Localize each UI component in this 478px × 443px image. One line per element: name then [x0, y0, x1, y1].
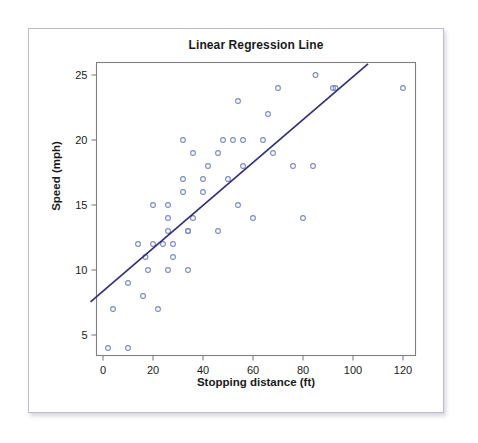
data-point: [106, 346, 111, 351]
data-point: [276, 86, 281, 91]
data-point: [166, 203, 171, 208]
x-tick-label: 80: [297, 364, 309, 376]
data-point: [161, 242, 166, 247]
x-tick-label: 100: [344, 364, 362, 376]
data-point: [236, 203, 241, 208]
plot-frame: [97, 63, 416, 356]
regression-line: [91, 64, 369, 302]
data-point: [241, 138, 246, 143]
data-point: [186, 268, 191, 273]
data-point: [201, 190, 206, 195]
data-point: [151, 242, 156, 247]
data-point: [261, 138, 266, 143]
data-point: [136, 242, 141, 247]
chart-figure: Linear Regression Line Speed (mph) Stopp…: [0, 0, 478, 443]
data-point: [191, 151, 196, 156]
y-tick-label: 25: [75, 69, 87, 81]
data-point: [241, 164, 246, 169]
y-tick-label: 15: [75, 199, 87, 211]
data-point: [181, 190, 186, 195]
x-tick-label: 60: [247, 364, 259, 376]
plot-svg: 020406080100120 510152025: [0, 0, 478, 443]
data-point: [251, 216, 256, 221]
data-point: [181, 177, 186, 182]
x-tick-label: 0: [100, 364, 106, 376]
data-point: [156, 307, 161, 312]
data-point: [166, 216, 171, 221]
data-point: [141, 294, 146, 299]
data-point: [171, 242, 176, 247]
data-point: [181, 138, 186, 143]
x-tick-label: 120: [394, 364, 412, 376]
data-point: [311, 164, 316, 169]
x-tick-label: 40: [197, 364, 209, 376]
x-tick-label: 20: [147, 364, 159, 376]
data-point: [221, 138, 226, 143]
data-point: [301, 216, 306, 221]
y-tick-label: 10: [75, 264, 87, 276]
screenshot-root: Linear Regression Line Speed (mph) Stopp…: [0, 0, 478, 443]
data-point: [236, 99, 241, 104]
data-point: [266, 112, 271, 117]
data-point: [126, 281, 131, 286]
data-point: [231, 138, 236, 143]
data-point: [291, 164, 296, 169]
data-point: [186, 229, 191, 234]
data-point: [171, 255, 176, 260]
data-point: [201, 177, 206, 182]
data-point: [166, 229, 171, 234]
scatter-points: [106, 73, 406, 351]
data-point: [206, 164, 211, 169]
data-point: [226, 177, 231, 182]
data-point: [216, 151, 221, 156]
y-tick-label: 5: [81, 329, 87, 341]
data-point: [313, 73, 318, 78]
y-tick-label: 20: [75, 134, 87, 146]
data-point: [271, 151, 276, 156]
data-point: [401, 86, 406, 91]
data-point: [126, 346, 131, 351]
data-point: [216, 229, 221, 234]
data-point: [166, 268, 171, 273]
data-point: [146, 268, 151, 273]
data-point: [151, 203, 156, 208]
data-point: [111, 307, 116, 312]
x-axis-ticks: 020406080100120: [100, 356, 412, 376]
